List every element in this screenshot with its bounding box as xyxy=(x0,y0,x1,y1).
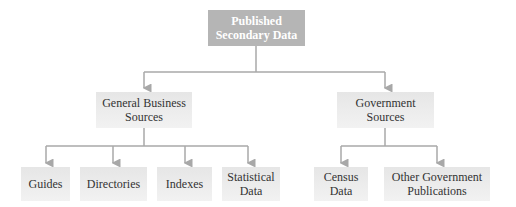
node-other-government-publications: Other Government Publications xyxy=(384,167,490,201)
node-published-secondary-data: Published Secondary Data xyxy=(208,10,305,46)
node-indexes: Indexes xyxy=(157,167,212,201)
node-label: General Business Sources xyxy=(102,96,186,124)
node-label: Published Secondary Data xyxy=(216,14,298,42)
node-statistical-data: Statistical Data xyxy=(222,167,280,201)
node-census-data: Census Data xyxy=(314,167,368,201)
node-guides: Guides xyxy=(21,167,70,201)
node-label: Other Government Publications xyxy=(392,170,482,198)
node-label: Directories xyxy=(87,177,140,191)
node-directories: Directories xyxy=(80,167,147,201)
node-label: Indexes xyxy=(166,177,203,191)
node-label: Government Sources xyxy=(356,96,416,124)
node-label: Census Data xyxy=(324,170,359,198)
node-government-sources: Government Sources xyxy=(337,92,434,128)
node-general-business-sources: General Business Sources xyxy=(96,92,192,128)
node-label: Statistical Data xyxy=(227,170,274,198)
node-label: Guides xyxy=(29,177,63,191)
